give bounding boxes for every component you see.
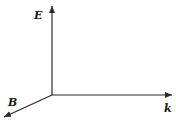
label-e: E — [33, 9, 43, 22]
em-wave-axes-diagram: E k B — [0, 0, 176, 120]
label-b: B — [7, 96, 17, 109]
label-k: k — [164, 102, 172, 115]
